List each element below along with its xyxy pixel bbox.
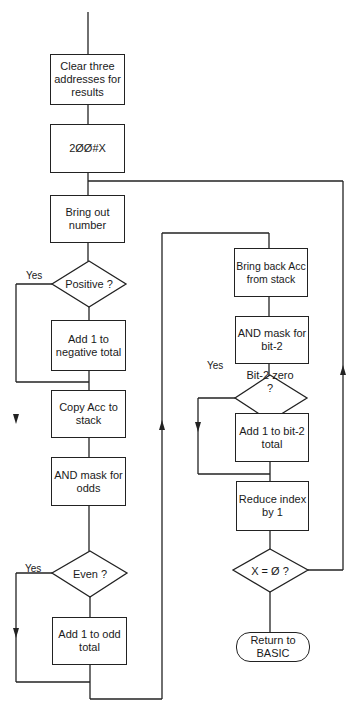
- bit2-mask-label: AND mask for bit-2: [236, 327, 308, 353]
- bring-back-acc-box: Bring back Acc from stack: [234, 248, 308, 297]
- return-to-basic-terminal: Return to BASIC: [236, 632, 310, 662]
- init-index-label: 2ØØ#X: [69, 142, 106, 155]
- copy-acc-box: Copy Acc to stack: [51, 390, 126, 438]
- bring-out-number-box: Bring out number: [50, 195, 125, 243]
- x-zero-decision-label: X = Ø ?: [245, 557, 295, 585]
- arrow-up-icon: [159, 420, 165, 430]
- negative-total-box: Add 1 to negative total: [51, 320, 126, 371]
- bit2-total-box: Add 1 to bit-2 total: [235, 413, 309, 462]
- copy-acc-label: Copy Acc to stack: [52, 401, 125, 427]
- arrow-down-icon: [13, 414, 19, 424]
- odd-total-label: Add 1 to odd total: [53, 628, 126, 654]
- clear-addresses-label: Clear three addresses for results: [51, 60, 124, 99]
- positive-yes-label: Yes: [26, 270, 42, 281]
- bit2-decision-label: Bit-2 zero ?: [245, 362, 295, 402]
- arrow-down-icon: [195, 422, 201, 432]
- bit2-total-label: Add 1 to bit-2 total: [236, 425, 308, 451]
- return-to-basic-label: Return to BASIC: [237, 634, 309, 660]
- clear-addresses-box: Clear three addresses for results: [50, 54, 125, 105]
- arrow-up-icon: [340, 365, 346, 375]
- even-decision-label: Even ?: [62, 560, 118, 588]
- positive-decision-label: Positive ?: [58, 270, 120, 298]
- reduce-index-label: Reduce index by 1: [237, 493, 308, 519]
- even-yes-label: Yes: [25, 563, 41, 574]
- odd-total-box: Add 1 to odd total: [52, 617, 127, 665]
- arrow-down-icon: [13, 628, 19, 638]
- init-index-box: 2ØØ#X: [50, 124, 125, 173]
- reduce-index-box: Reduce index by 1: [236, 481, 309, 531]
- bring-back-acc-label: Bring back Acc from stack: [235, 260, 307, 286]
- negative-total-label: Add 1 to negative total: [52, 333, 125, 359]
- bring-out-number-label: Bring out number: [51, 206, 124, 232]
- odds-mask-label: AND mask for odds: [52, 469, 125, 495]
- bit2-yes-label: Yes: [207, 360, 223, 371]
- odds-mask-box: AND mask for odds: [51, 457, 126, 506]
- bit2-mask-box: AND mask for bit-2: [235, 316, 309, 364]
